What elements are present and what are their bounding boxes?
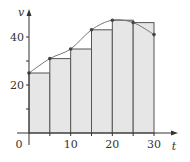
rectangle <box>29 73 50 133</box>
data-point <box>111 18 115 22</box>
data-point <box>152 33 156 37</box>
y-axis-arrow-icon <box>27 9 32 16</box>
rectangle <box>50 59 71 133</box>
x-axis-label: t <box>172 140 177 153</box>
x-tick-label: 30 <box>147 138 161 151</box>
data-point <box>69 47 73 51</box>
data-point <box>48 57 52 61</box>
rectangle <box>92 30 113 133</box>
y-axis-label: v <box>18 6 25 19</box>
y-tick-label: 40 <box>10 31 24 44</box>
rectangle <box>112 20 133 133</box>
rectangle <box>71 49 92 133</box>
y-tick-label: 20 <box>10 79 24 92</box>
data-point <box>131 21 135 25</box>
riemann-sum-chart: 0 t v 1020302040 <box>0 0 190 162</box>
data-point <box>90 28 94 32</box>
x-tick-label: 10 <box>64 138 78 151</box>
origin-label: 0 <box>16 138 23 151</box>
x-axis-arrow-icon <box>171 131 178 136</box>
rectangle <box>133 23 154 133</box>
x-tick-label: 20 <box>105 138 119 151</box>
rectangles <box>29 20 154 133</box>
